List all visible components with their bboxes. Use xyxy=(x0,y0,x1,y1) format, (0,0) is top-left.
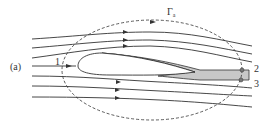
contour-label: Γa xyxy=(167,6,176,18)
arrow-icon xyxy=(123,44,128,48)
arrow-icon xyxy=(123,38,128,42)
streamline-bottom-3 xyxy=(32,97,252,107)
streamline-bottom-2 xyxy=(32,86,252,96)
point-3-label: 3 xyxy=(254,78,259,89)
panel-label: (a) xyxy=(10,61,21,73)
arrow-icon xyxy=(115,96,120,100)
streamline-top-2 xyxy=(32,40,252,54)
arrow-contour-icon xyxy=(150,20,156,24)
point-1-label: 1 xyxy=(55,56,60,67)
airfoil-streamline-diagram: (a) 1 2 3 Γa xyxy=(0,0,273,125)
streamline-top-1 xyxy=(32,32,252,46)
arrow-icon xyxy=(123,30,128,34)
point-2-marker xyxy=(240,68,244,72)
arrow-icon xyxy=(116,80,121,84)
point-3-marker xyxy=(239,78,243,82)
arrow-icon xyxy=(66,64,72,68)
point-2-label: 2 xyxy=(254,63,259,74)
